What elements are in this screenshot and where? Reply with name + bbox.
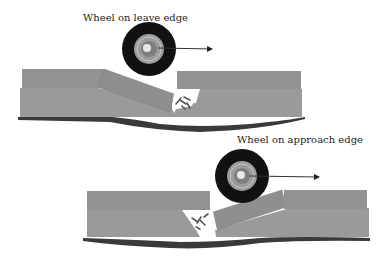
top-left-slab xyxy=(22,69,104,88)
top-panel xyxy=(18,22,305,132)
top-subgrade-layer xyxy=(18,116,305,132)
top-right-slab xyxy=(177,71,301,89)
joint-faulting-diagram xyxy=(0,0,392,262)
bottom-right-slab xyxy=(284,190,367,209)
bottom-subgrade-layer xyxy=(83,237,370,248)
top-wheel-icon xyxy=(122,22,176,76)
bottom-base-layer xyxy=(87,210,200,237)
bottom-left-slab xyxy=(87,191,210,210)
bottom-panel xyxy=(83,149,370,248)
